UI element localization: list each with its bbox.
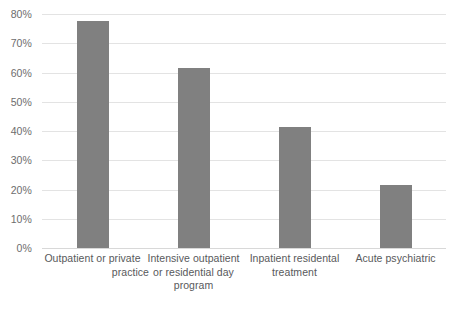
x-axis-label-line: practice xyxy=(36,266,149,280)
bars-group xyxy=(42,14,446,248)
x-axis-label-line: program xyxy=(137,279,250,293)
y-axis-tick-label: 70% xyxy=(0,38,32,49)
bar[interactable] xyxy=(178,68,210,248)
x-axis-category-labels: Outpatient or privatepracticeIntensive o… xyxy=(42,252,446,304)
y-axis-tick-label: 40% xyxy=(0,126,32,137)
x-axis-label-line: or residential day xyxy=(137,266,250,280)
gridline-0pct xyxy=(42,248,446,249)
x-axis-label-line: Acute psychiatric xyxy=(339,252,452,266)
y-axis-tick-label: 0% xyxy=(0,243,32,254)
y-axis-tick-label: 60% xyxy=(0,67,32,78)
x-axis-category-label: Intensive outpatientor residential daypr… xyxy=(137,252,250,293)
y-axis-tick-label: 80% xyxy=(0,9,32,20)
x-axis-label-line: treatment xyxy=(238,266,351,280)
bar[interactable] xyxy=(279,127,311,248)
y-axis-tick-label: 10% xyxy=(0,214,32,225)
x-axis-category-label: Acute psychiatric xyxy=(339,252,452,266)
y-axis-tick-label: 30% xyxy=(0,155,32,166)
y-axis-tick-label: 20% xyxy=(0,184,32,195)
bar[interactable] xyxy=(77,21,109,248)
y-axis-tick-label: 50% xyxy=(0,97,32,108)
x-axis-category-label: Outpatient or privatepractice xyxy=(36,252,149,279)
x-axis-label-line: Inpatient residental xyxy=(238,252,351,266)
x-axis-label-line: Intensive outpatient xyxy=(137,252,250,266)
bar-slot xyxy=(143,14,244,248)
bar-slot xyxy=(345,14,446,248)
bar-slot xyxy=(244,14,345,248)
x-axis-label-line: Outpatient or private xyxy=(36,252,149,266)
x-axis-category-label: Inpatient residentaltreatment xyxy=(238,252,351,279)
bar[interactable] xyxy=(380,185,412,248)
bar-chart: 0%10%20%30%40%50%60%70%80% Outpatient or… xyxy=(0,0,452,309)
bar-slot xyxy=(42,14,143,248)
